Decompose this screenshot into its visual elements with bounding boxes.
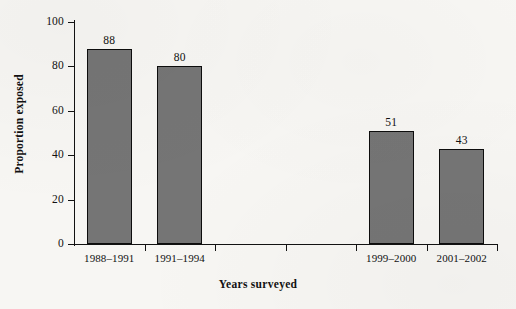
y-tick-label: 80 [30, 60, 64, 72]
y-tick-label: 60 [30, 105, 64, 117]
x-tick-label: 1991–1994 [145, 252, 216, 264]
x-tick-mark [286, 244, 287, 251]
y-tick-label: 100 [30, 16, 64, 28]
bar-value-label: 43 [432, 134, 492, 146]
y-tick-mark [68, 66, 74, 67]
y-tick-label: 40 [30, 149, 64, 161]
x-tick-mark [497, 244, 498, 251]
y-tick-label: 20 [30, 194, 64, 206]
y-tick-mark [68, 111, 74, 112]
x-tick-label: 2001–2002 [427, 252, 498, 264]
y-axis-title: Proportion exposed [13, 44, 25, 204]
x-tick-mark [215, 244, 216, 251]
x-tick-mark [427, 244, 428, 251]
x-tick-label: 1988–1991 [74, 252, 145, 264]
y-tick-mark [68, 22, 74, 23]
y-tick-mark [68, 244, 74, 245]
bar-value-label: 80 [150, 51, 210, 63]
y-tick-mark [68, 155, 74, 156]
bar [157, 66, 202, 244]
bar [439, 149, 484, 244]
bar-chart-figure: 020406080100 1988–19911991–19941999–2000… [0, 0, 516, 309]
x-axis-title: Years surveyed [0, 278, 516, 290]
x-tick-label: 1999–2000 [356, 252, 427, 264]
y-tick-label: 0 [30, 238, 64, 250]
y-tick-mark [68, 200, 74, 201]
x-tick-mark [145, 244, 146, 251]
y-axis-line [74, 20, 75, 246]
bar-value-label: 51 [361, 116, 421, 128]
x-tick-mark [356, 244, 357, 251]
bar-value-label: 88 [79, 34, 139, 46]
bar [369, 131, 414, 244]
bar [87, 49, 132, 244]
